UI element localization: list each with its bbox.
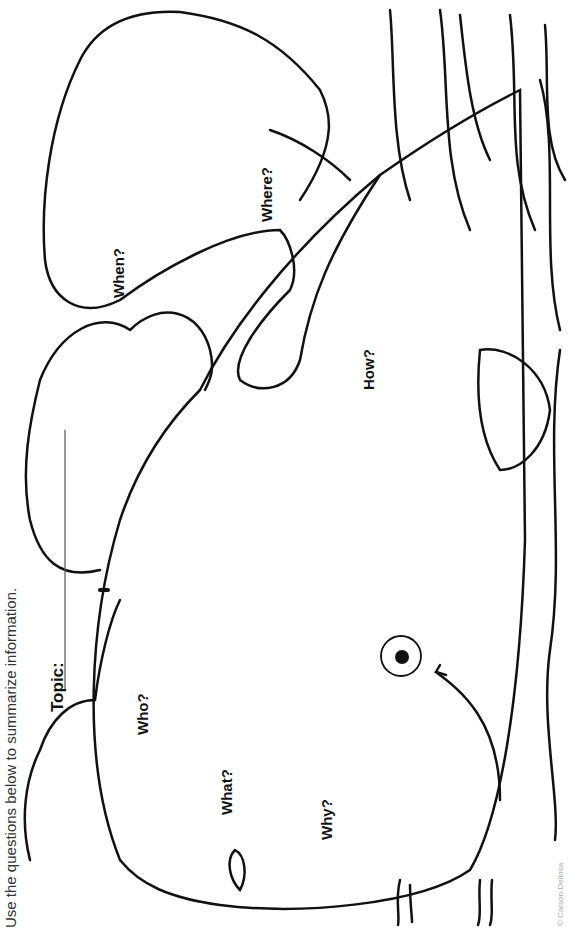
whale-fin xyxy=(478,349,550,470)
topic-input-line[interactable] xyxy=(55,430,75,690)
water-spout xyxy=(26,313,212,573)
copyright-text: © Carson-Dellosa xyxy=(556,863,565,926)
whale-smile xyxy=(436,672,500,800)
water-drop xyxy=(230,850,245,890)
label-who: Who? xyxy=(134,693,151,735)
whale-body xyxy=(94,90,525,909)
label-how: How? xyxy=(360,349,377,390)
whale-tail xyxy=(44,12,380,388)
instructions-text: Use the questions below to summarize inf… xyxy=(2,588,19,928)
whale-illustration xyxy=(0,0,569,928)
label-where: Where? xyxy=(258,167,275,222)
label-when: When? xyxy=(110,248,127,298)
label-why: Why? xyxy=(318,799,335,840)
label-what: What? xyxy=(218,769,235,815)
